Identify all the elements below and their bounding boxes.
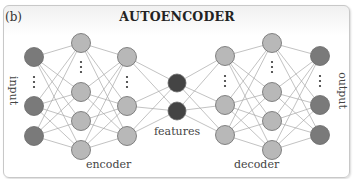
input-label: input (7, 76, 20, 106)
neuron-node (216, 47, 235, 66)
neuron-node (25, 127, 44, 146)
neuron-node (118, 48, 137, 67)
output-label: output (336, 71, 349, 111)
neuron-node (118, 97, 137, 116)
neuron-node (311, 126, 330, 145)
ellipsis-dot (224, 80, 226, 82)
decoder-label: decoder (234, 158, 279, 171)
neuron-node (263, 112, 282, 131)
neuron-node (72, 83, 91, 102)
neuron-node (118, 127, 137, 146)
neuron-node (72, 34, 91, 53)
neuron-node (263, 34, 282, 53)
neuron-node (168, 74, 186, 92)
ellipsis-dot (271, 61, 273, 63)
ellipsis-dot (319, 85, 321, 87)
neuron-node (72, 112, 91, 131)
neuron-node (216, 96, 235, 115)
output-layer (311, 47, 330, 145)
neuron-node (168, 102, 186, 120)
ellipsis-dot (33, 76, 35, 78)
ellipsis-dot (271, 66, 273, 68)
encoder-label: encoder (86, 158, 131, 171)
ellipsis-dot (33, 81, 35, 83)
neuron-node (25, 48, 44, 67)
ellipsis-dot (224, 75, 226, 77)
neuron-node (263, 83, 282, 102)
decoder-hidden-2-layer (263, 34, 282, 160)
neuron-node (263, 141, 282, 160)
features-layer (168, 74, 186, 120)
ellipsis-dot (80, 71, 82, 73)
neuron-node (311, 96, 330, 115)
ellipsis-dot (126, 76, 128, 78)
autoencoder-diagram: (b) AUTOENCODER input output encoder dec… (0, 0, 354, 179)
ellipsis-dot (319, 80, 321, 82)
network-graph (0, 0, 354, 179)
ellipsis-dot (126, 86, 128, 88)
neuron-node (25, 97, 44, 116)
neuron-node (311, 47, 330, 66)
ellipsis-dot (319, 75, 321, 77)
ellipsis-dot (33, 86, 35, 88)
ellipsis-dot (80, 66, 82, 68)
ellipsis-dot (126, 81, 128, 83)
ellipsis-dot (224, 85, 226, 87)
decoder-hidden-1-layer (216, 47, 235, 145)
features-label: features (154, 125, 200, 138)
ellipsis-dot (271, 71, 273, 73)
input-layer (25, 48, 44, 146)
neuron-node (216, 126, 235, 145)
neuron-node (72, 141, 91, 160)
ellipsis-dot (80, 61, 82, 63)
